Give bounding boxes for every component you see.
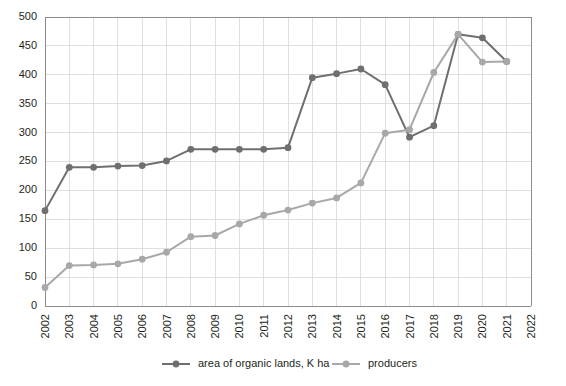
data-point-marker bbox=[139, 162, 146, 169]
y-tick-label: 100 bbox=[19, 241, 37, 253]
legend-marker-swatch bbox=[173, 361, 180, 368]
data-point-marker bbox=[90, 164, 97, 171]
data-point-marker bbox=[382, 130, 389, 137]
data-point-marker bbox=[115, 260, 122, 267]
y-tick-label: 350 bbox=[19, 97, 37, 109]
x-tick-label: 2012 bbox=[282, 314, 294, 338]
y-tick-label: 0 bbox=[31, 299, 37, 311]
data-point-marker bbox=[285, 207, 292, 214]
x-tick-label: 2002 bbox=[39, 314, 51, 338]
data-point-marker bbox=[115, 163, 122, 170]
y-tick-label: 400 bbox=[19, 68, 37, 80]
data-point-marker bbox=[66, 262, 73, 269]
x-tick-label: 2004 bbox=[88, 314, 100, 338]
x-axis-tick-labels: 2002200320042005200620072008200920102011… bbox=[39, 314, 537, 338]
data-point-marker bbox=[260, 146, 267, 153]
data-point-marker bbox=[187, 233, 194, 240]
series-lines bbox=[45, 34, 507, 287]
x-tick-label: 2006 bbox=[136, 314, 148, 338]
y-tick-label: 500 bbox=[19, 10, 37, 22]
data-point-marker bbox=[90, 262, 97, 269]
y-tick-label: 200 bbox=[19, 183, 37, 195]
x-tick-label: 2017 bbox=[404, 314, 416, 338]
line-chart: 050100150200250300350400450500 200220032… bbox=[0, 0, 566, 386]
series-line bbox=[45, 34, 507, 210]
data-point-marker bbox=[236, 146, 243, 153]
data-point-marker bbox=[479, 34, 486, 41]
data-point-marker bbox=[163, 158, 170, 165]
data-point-marker bbox=[163, 249, 170, 256]
y-tick-label: 250 bbox=[19, 154, 37, 166]
legend-item-label: producers bbox=[368, 357, 417, 369]
data-point-marker bbox=[333, 195, 340, 202]
legend-marker-swatch bbox=[343, 361, 350, 368]
x-tick-label: 2015 bbox=[355, 314, 367, 338]
x-tick-label: 2018 bbox=[428, 314, 440, 338]
x-tick-label: 2021 bbox=[501, 314, 513, 338]
y-axis-tick-labels: 050100150200250300350400450500 bbox=[19, 10, 37, 311]
data-point-marker bbox=[139, 256, 146, 263]
data-point-marker bbox=[406, 126, 413, 133]
x-tick-label: 2011 bbox=[258, 314, 270, 338]
x-tick-label: 2022 bbox=[525, 314, 537, 338]
x-tick-label: 2010 bbox=[233, 314, 245, 338]
chart-canvas: 050100150200250300350400450500 200220032… bbox=[0, 0, 566, 386]
data-point-marker bbox=[455, 31, 462, 38]
data-point-markers bbox=[42, 31, 511, 291]
data-point-marker bbox=[309, 200, 316, 207]
data-point-marker bbox=[430, 69, 437, 76]
data-point-marker bbox=[187, 146, 194, 153]
data-point-marker bbox=[212, 232, 219, 239]
x-tick-label: 2014 bbox=[331, 314, 343, 338]
chart-legend: area of organic lands, K haproducers bbox=[162, 357, 417, 369]
x-tick-label: 2009 bbox=[209, 314, 221, 338]
x-tick-label: 2013 bbox=[306, 314, 318, 338]
data-point-marker bbox=[42, 207, 49, 214]
x-tick-label: 2016 bbox=[379, 314, 391, 338]
data-point-marker bbox=[382, 81, 389, 88]
x-tick-label: 2003 bbox=[63, 314, 75, 338]
series-line bbox=[45, 34, 507, 287]
data-point-marker bbox=[285, 144, 292, 151]
x-tick-label: 2019 bbox=[452, 314, 464, 338]
data-point-marker bbox=[212, 146, 219, 153]
legend-item-label: area of organic lands, K ha bbox=[198, 357, 330, 369]
y-tick-label: 50 bbox=[25, 270, 37, 282]
data-point-marker bbox=[358, 179, 365, 186]
x-tick-label: 2005 bbox=[112, 314, 124, 338]
x-tick-label: 2008 bbox=[185, 314, 197, 338]
data-point-marker bbox=[333, 70, 340, 77]
y-tick-label: 150 bbox=[19, 212, 37, 224]
x-tick-label: 2007 bbox=[161, 314, 173, 338]
data-point-marker bbox=[479, 59, 486, 66]
data-point-marker bbox=[66, 164, 73, 171]
x-tick-label: 2020 bbox=[476, 314, 488, 338]
data-point-marker bbox=[236, 221, 243, 228]
data-point-marker bbox=[309, 74, 316, 81]
data-point-marker bbox=[406, 134, 413, 141]
data-point-marker bbox=[430, 122, 437, 129]
y-tick-label: 450 bbox=[19, 39, 37, 51]
data-point-marker bbox=[358, 66, 365, 73]
data-point-marker bbox=[503, 58, 510, 65]
y-tick-label: 300 bbox=[19, 126, 37, 138]
data-point-marker bbox=[42, 284, 49, 291]
data-point-marker bbox=[260, 212, 267, 219]
